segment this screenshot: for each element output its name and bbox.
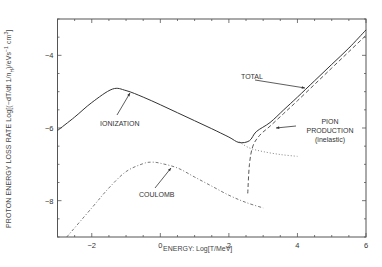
coulomb-label: COULOMB: [139, 190, 174, 199]
x-axis-label: ENERGY: Log[T/MeV]: [163, 245, 232, 252]
tick-labels: −20246−4−6−8: [45, 51, 368, 250]
ionization-arrow: [117, 93, 130, 115]
pion-production-inelastic-curve: [248, 35, 366, 193]
coulomb-curve: [67, 162, 263, 237]
pion-label-line1: PION: [300, 117, 360, 126]
total-arrow: [255, 80, 305, 88]
coulomb-arrow: [155, 168, 171, 188]
pion-label-line2: PRODUCTION: [300, 126, 360, 135]
y-tick-label: −4: [45, 51, 54, 60]
y-tick-label: −6: [45, 124, 54, 133]
ionization-curve: [239, 142, 297, 157]
total-arrow-head: [302, 86, 305, 89]
x-tick-label: 0: [158, 241, 162, 250]
total-label: TOTAL: [241, 72, 263, 81]
pion-production-label: PION PRODUCTION (inelastic): [300, 117, 360, 144]
x-tick-label: 4: [295, 241, 299, 250]
y-axis-label: PROTON ENERGY LOSS RATE Log[(−dT/dt 1/nH…: [3, 30, 15, 228]
annotation-arrows: [117, 80, 305, 188]
x-tick-label: −2: [87, 241, 96, 250]
x-tick-label: 6: [364, 241, 368, 250]
y-tick-label: −8: [45, 197, 54, 206]
pion-label-line3: (inelastic): [300, 135, 360, 144]
ionization-label: IONIZATION: [100, 119, 140, 128]
